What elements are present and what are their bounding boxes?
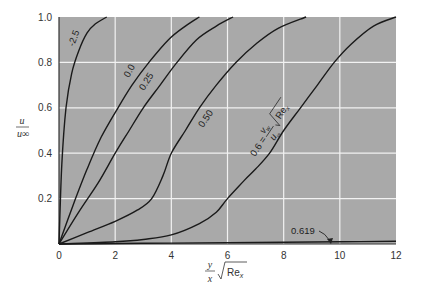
y-tick-label: 0.4 — [38, 148, 52, 159]
x-tick-label: 10 — [334, 250, 346, 261]
y-axis-label: u u∞ — [16, 115, 29, 139]
x-tick-label: 6 — [225, 250, 231, 261]
curve-label-0-619: 0.619 — [291, 225, 315, 236]
x-axis-label: y x Rex — [205, 259, 247, 284]
x-tick-labels: 024681012 — [56, 250, 402, 261]
y-tick-label: 0.6 — [38, 102, 52, 113]
x-tick-label: 4 — [169, 250, 175, 261]
y-tick-label: 0.8 — [38, 57, 52, 68]
y-tick-label: 1.0 — [38, 12, 52, 23]
boundary-layer-velocity-chart: 024681012 0.20.40.60.81.0 -2.5 0.0 0.25 … — [0, 0, 422, 298]
x-tick-label: 2 — [112, 250, 118, 261]
svg-text:y: y — [207, 259, 213, 270]
svg-text:u: u — [20, 115, 25, 126]
x-tick-label: 12 — [390, 250, 402, 261]
svg-text:u∞: u∞ — [17, 128, 29, 139]
y-tick-label: 0.2 — [38, 193, 52, 204]
x-tick-label: 8 — [281, 250, 287, 261]
x-tick-label: 0 — [56, 250, 62, 261]
svg-text:Rex: Rex — [227, 267, 244, 279]
y-tick-labels: 0.20.40.60.81.0 — [38, 12, 52, 205]
svg-text:x: x — [207, 273, 213, 284]
